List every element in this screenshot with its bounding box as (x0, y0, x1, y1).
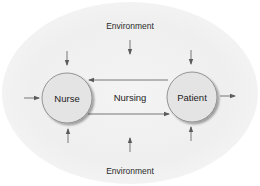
nursing-center-label: Nursing (114, 92, 147, 103)
environment-bottom-label: Environment (106, 166, 154, 176)
nursing-model-diagram: Environment Environment Nurse Patient Nu… (0, 0, 260, 186)
nurse-node-label: Nurse (54, 93, 79, 104)
environment-top-label: Environment (106, 21, 154, 31)
patient-node-label: Patient (177, 92, 207, 103)
